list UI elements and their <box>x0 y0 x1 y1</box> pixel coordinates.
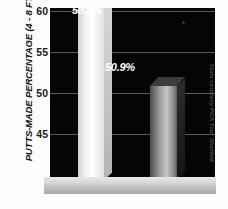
y-axis-tick-55: 55 <box>22 47 48 58</box>
base-top-face <box>44 177 216 185</box>
bar-chart: PUTTS-MADE PERCENTAGE (4 - 8 FT) 60 55 5… <box>0 0 228 209</box>
y-axis-tick-60: 60 <box>22 6 48 17</box>
base-front-face <box>44 185 216 194</box>
bar-1-front-face <box>78 8 104 180</box>
bar-2-value-label: 50.9% <box>105 61 135 73</box>
plot-area <box>50 8 215 180</box>
x-axis-label-group <box>50 199 215 209</box>
bar-1-value-label: 58.1% <box>72 4 102 16</box>
source-credit: Stats courtesy PGA Tour Shotlink <box>209 64 216 150</box>
y-axis-tick-45: 45 <box>22 129 48 140</box>
plot-artifact-speck <box>182 21 185 24</box>
chart-base-platform <box>44 177 216 194</box>
gridline-55 <box>50 52 215 53</box>
bar-series-1[interactable] <box>78 8 104 180</box>
bar-series-2[interactable] <box>150 86 177 180</box>
bar-2-front-face <box>150 86 177 180</box>
bar-1-side-face <box>104 8 112 180</box>
gridline-50 <box>50 93 215 94</box>
y-axis-tick-50: 50 <box>22 88 48 99</box>
gridline-45 <box>50 134 215 135</box>
bar-2-side-face <box>177 79 185 180</box>
